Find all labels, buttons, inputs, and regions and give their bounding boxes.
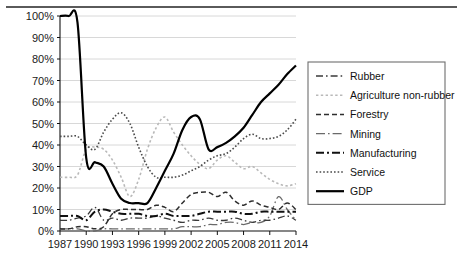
legend-label-gdp: GDP <box>350 185 373 197</box>
y-axis-tick-label: 90% <box>32 32 54 44</box>
y-axis-tick-label: 0% <box>38 225 54 237</box>
legend-label-rubber: Rubber <box>350 70 385 82</box>
legend-label-agriculture-non-rubber: Agriculture non-rubber <box>350 89 455 101</box>
series-line-forestry <box>60 192 296 229</box>
y-axis-tick-label: 50% <box>32 118 54 130</box>
x-axis-tick-label: 1996 <box>126 238 150 250</box>
chart-legend: RubberAgriculture non-rubberForestryMini… <box>308 62 455 204</box>
x-axis-tick-label: 1987 <box>48 238 72 250</box>
legend-label-forestry: Forestry <box>350 108 389 120</box>
y-axis-tick-label: 80% <box>32 53 54 65</box>
series-line-mining <box>60 197 296 232</box>
y-axis-tick-label: 70% <box>32 75 54 87</box>
legend-label-service: Service <box>350 166 385 178</box>
legend-label-manufacturing: Manufacturing <box>350 147 417 159</box>
x-axis-tick-label: 2008 <box>231 238 255 250</box>
x-axis-tick-label: 1993 <box>100 238 124 250</box>
y-axis-tick-label: 60% <box>32 96 54 108</box>
data-series-group <box>60 10 296 231</box>
y-axis-tick-label: 20% <box>32 182 54 194</box>
line-chart: 0%10%20%30%40%50%60%70%80%90%100% 198719… <box>0 0 463 270</box>
x-axis-tick-label: 2005 <box>205 238 229 250</box>
y-axis-tick-label: 30% <box>32 161 54 173</box>
series-line-manufacturing <box>60 210 296 221</box>
grid-lines <box>60 16 296 210</box>
x-axis-ticks <box>60 231 296 235</box>
series-line-agriculture-non-rubber <box>60 117 296 197</box>
y-axis-tick-label: 10% <box>32 204 54 216</box>
y-axis-tick-label: 40% <box>32 139 54 151</box>
x-axis-tick-label: 1990 <box>74 238 98 250</box>
legend-label-mining: Mining <box>350 128 381 140</box>
chart-canvas: 0%10%20%30%40%50%60%70%80%90%100% 198719… <box>0 0 463 270</box>
y-axis-tick-label: 100% <box>26 10 54 22</box>
x-axis-tick-label: 2011 <box>258 238 282 250</box>
x-axis-tick-label: 2014 <box>284 238 308 250</box>
x-axis-labels: 1987199019931996199920022005200820112014 <box>48 238 308 250</box>
series-line-gdp <box>60 10 296 204</box>
x-axis-tick-label: 1999 <box>153 238 177 250</box>
y-axis-labels: 0%10%20%30%40%50%60%70%80%90%100% <box>26 10 54 237</box>
x-axis-tick-label: 2002 <box>179 238 203 250</box>
